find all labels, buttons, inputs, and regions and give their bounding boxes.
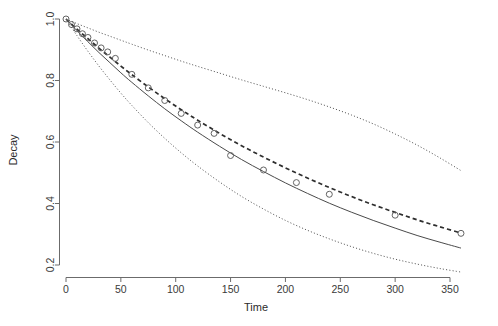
data-point: [458, 230, 464, 236]
y-axis-tick-label: 0.6: [44, 135, 56, 150]
y-axis: 0.20.40.60.81.0: [44, 12, 59, 273]
x-axis-tick-label: 50: [115, 283, 127, 295]
data-point: [195, 122, 201, 128]
x-axis-tick-label: 300: [386, 283, 404, 295]
x-axis-tick-label: 0: [63, 283, 69, 295]
x-axis-tick-label: 350: [441, 283, 459, 295]
data-point: [178, 110, 184, 116]
curves-layer: [66, 19, 461, 272]
y-axis-tick-label: 1.0: [44, 12, 56, 27]
series-fitted-dashed-curve: [66, 19, 461, 233]
series-true-solid-curve: [66, 19, 461, 248]
chart-canvas: Time Decay 0.20.40.60.81.0 0501001502002…: [0, 0, 498, 326]
data-point: [211, 130, 217, 136]
x-axis: 050100150200250300350: [63, 278, 459, 296]
series-lower-confidence-band: [66, 19, 461, 272]
data-point: [129, 71, 135, 77]
data-point: [105, 49, 111, 55]
series-upper-confidence-band: [66, 19, 461, 171]
data-points-layer: [63, 16, 464, 236]
y-axis-tick-label: 0.2: [44, 258, 56, 273]
data-point: [112, 55, 118, 61]
y-axis-title: Decay: [7, 134, 19, 166]
data-point: [326, 191, 332, 197]
x-axis-tick-label: 100: [167, 283, 185, 295]
decay-chart: Time Decay 0.20.40.60.81.0 0501001502002…: [0, 0, 498, 326]
x-axis-tick-label: 200: [277, 283, 295, 295]
x-axis-title: Time: [244, 301, 268, 313]
x-axis-tick-label: 250: [332, 283, 350, 295]
y-axis-tick-label: 0.4: [44, 196, 56, 211]
data-point: [293, 180, 299, 186]
y-axis-tick-label: 0.8: [44, 73, 56, 88]
x-axis-tick-label: 150: [222, 283, 240, 295]
